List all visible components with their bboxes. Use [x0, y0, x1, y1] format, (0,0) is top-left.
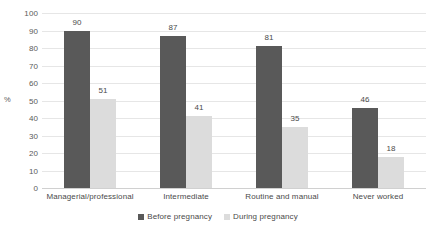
bar-value-label: 90	[72, 18, 81, 27]
bar-pair: 90 51	[64, 13, 116, 188]
chart-legend: Before pregnancy During pregnancy	[0, 212, 436, 221]
bar-value-label: 81	[264, 33, 273, 42]
bar-before-pregnancy[interactable]: 46	[352, 108, 378, 189]
y-axis-tick: 90	[2, 26, 42, 35]
y-axis-tick: 100	[2, 9, 42, 18]
bar-pair: 81 35	[256, 13, 308, 188]
bar-group: 87 41	[138, 13, 234, 188]
y-axis-tick: 20	[2, 149, 42, 158]
bar-before-pregnancy[interactable]: 87	[160, 36, 186, 188]
bar-group: 90 51	[42, 13, 138, 188]
x-axis-category-label: Managerial/professional	[42, 192, 138, 201]
x-axis-category-label: Routine and manual	[234, 192, 330, 201]
bar-during-pregnancy[interactable]: 35	[282, 127, 308, 188]
bar-value-label: 18	[386, 144, 395, 153]
bar-group: 81 35	[234, 13, 330, 188]
y-axis-tick: 30	[2, 131, 42, 140]
legend-label: During pregnancy	[233, 212, 298, 221]
bar-value-label: 51	[98, 86, 107, 95]
bar-groups: 90 51 87 41	[42, 13, 426, 188]
bar-value-label: 87	[168, 23, 177, 32]
x-axis-category-label: Intermediate	[138, 192, 234, 201]
bar-before-pregnancy[interactable]: 81	[256, 46, 282, 188]
y-axis-tick: 0	[2, 184, 42, 193]
y-axis-tick: 40	[2, 114, 42, 123]
bar-value-label: 41	[194, 103, 203, 112]
bar-pair: 87 41	[160, 13, 212, 188]
legend-swatch-icon	[138, 214, 144, 220]
x-axis-category-label: Never worked	[330, 192, 426, 201]
legend-item-before-pregnancy[interactable]: Before pregnancy	[138, 212, 212, 221]
y-axis-tick: 80	[2, 44, 42, 53]
bar-group: 46 18	[330, 13, 426, 188]
y-axis-tick: 70	[2, 61, 42, 70]
y-axis-tick: 10	[2, 166, 42, 175]
legend-item-during-pregnancy[interactable]: During pregnancy	[224, 212, 298, 221]
bar-before-pregnancy[interactable]: 90	[64, 31, 90, 189]
bar-chart: % 100 90 80 70 60 50 40 30 20 10 0 90	[0, 0, 436, 239]
x-axis-baseline	[42, 188, 426, 189]
y-axis-tick: 60	[2, 79, 42, 88]
legend-swatch-icon	[224, 214, 230, 220]
bar-value-label: 46	[360, 95, 369, 104]
plot-area: 90 51 87 41	[42, 13, 426, 188]
y-axis-tick: 50	[2, 96, 42, 105]
bar-pair: 46 18	[352, 13, 404, 188]
bar-during-pregnancy[interactable]: 18	[378, 157, 404, 189]
y-axis-ticks: 100 90 80 70 60 50 40 30 20 10 0	[0, 0, 42, 239]
legend-label: Before pregnancy	[147, 212, 212, 221]
bar-during-pregnancy[interactable]: 41	[186, 116, 212, 188]
bar-during-pregnancy[interactable]: 51	[90, 99, 116, 188]
bar-value-label: 35	[290, 114, 299, 123]
x-axis-category-labels: Managerial/professional Intermediate Rou…	[42, 192, 426, 201]
